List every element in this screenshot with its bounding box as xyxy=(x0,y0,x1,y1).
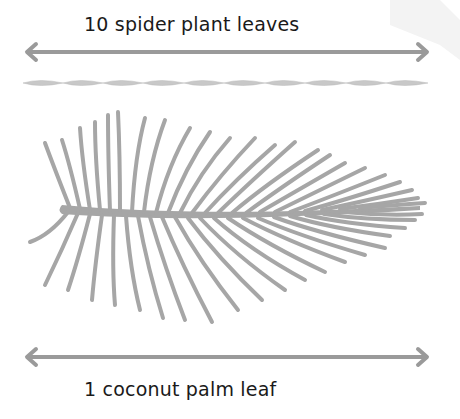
bottom-double-arrow-icon xyxy=(27,349,427,365)
coconut-palm-leaf-icon xyxy=(30,112,425,322)
top-double-arrow-icon xyxy=(27,44,427,60)
spider-plant-leaves-row xyxy=(23,81,428,86)
bottom-label: 1 coconut palm leaf xyxy=(84,378,276,400)
